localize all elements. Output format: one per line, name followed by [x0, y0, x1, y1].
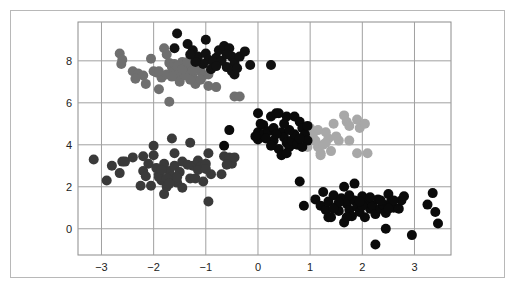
- data-point-cluster-lower-right: [339, 182, 349, 192]
- data-point-cluster-lower-left: [203, 148, 213, 158]
- data-point-cluster-lower-left: [183, 160, 193, 170]
- data-point-cluster-center: [271, 129, 281, 139]
- data-point-cluster-right-middle: [313, 125, 323, 135]
- x-tick-label: 1: [307, 261, 313, 273]
- data-point-cluster-lower-left: [141, 171, 151, 181]
- data-point-cluster-lower-right: [383, 204, 393, 214]
- data-point-cluster-upper-center: [211, 61, 221, 71]
- data-point-cluster-lower-left: [107, 161, 117, 171]
- data-point-cluster-upper-center: [201, 35, 211, 45]
- data-point-cluster-center: [279, 119, 289, 129]
- data-point-cluster-upper-left: [146, 54, 156, 64]
- data-point-cluster-lower-right: [399, 191, 409, 201]
- data-point-cluster-upper-center: [222, 50, 232, 60]
- x-tick-label: 0: [255, 261, 261, 273]
- data-point-cluster-lower-left: [149, 141, 159, 151]
- data-point-cluster-center: [282, 148, 292, 158]
- data-point-cluster-lower-right: [295, 177, 305, 187]
- data-point-cluster-upper-left: [196, 75, 206, 85]
- data-point-cluster-lower-left: [230, 152, 240, 162]
- data-point-cluster-lower-right: [360, 212, 370, 222]
- data-point-cluster-upper-left: [235, 92, 245, 102]
- y-tick-label: 0: [66, 223, 72, 235]
- data-point-cluster-lower-right: [342, 212, 352, 222]
- data-point-cluster-upper-center: [185, 50, 195, 60]
- data-point-cluster-lower-left: [217, 169, 227, 179]
- data-point-cluster-lower-left: [222, 160, 232, 170]
- data-point-cluster-lower-left: [146, 181, 156, 191]
- data-point-cluster-right-middle: [331, 131, 341, 141]
- data-point-cluster-upper-center: [172, 29, 182, 39]
- data-point-cluster-lower-right: [365, 192, 375, 202]
- data-point-cluster-upper-left: [185, 75, 195, 85]
- data-point-cluster-lower-right: [355, 197, 365, 207]
- data-point-cluster-lower-right: [407, 230, 417, 240]
- data-point-cluster-lower-right: [350, 179, 360, 189]
- data-point-cluster-lower-left: [201, 164, 211, 174]
- data-point-cluster-right-middle: [344, 136, 354, 146]
- y-tick-label: 6: [66, 97, 72, 109]
- data-point-cluster-lower-left: [167, 134, 177, 144]
- data-point-cluster-lower-right: [389, 195, 399, 205]
- y-tick-label: 4: [66, 139, 72, 151]
- data-point-cluster-upper-left: [164, 97, 174, 107]
- data-point-cluster-lower-left: [136, 181, 146, 191]
- data-point-cluster-right-middle: [360, 119, 370, 129]
- data-point-cluster-lower-left: [102, 176, 112, 186]
- x-tick-label: −2: [147, 261, 160, 273]
- data-point-cluster-upper-left: [154, 84, 164, 94]
- data-point-cluster-lower-right: [428, 188, 438, 198]
- data-point-cluster-center: [224, 125, 234, 135]
- x-tick-label: −3: [95, 261, 108, 273]
- data-point-cluster-upper-left: [167, 72, 177, 82]
- x-axis-ticks: −3−2−10123: [95, 261, 417, 273]
- data-point-cluster-lower-right: [299, 201, 309, 211]
- data-point-cluster-upper-center: [170, 43, 180, 53]
- data-point-cluster-upper-left: [130, 74, 140, 84]
- data-point-cluster-right-middle: [352, 148, 362, 158]
- data-point-cluster-center: [219, 141, 229, 151]
- x-tick-label: 2: [359, 261, 365, 273]
- data-point-cluster-right-middle: [363, 148, 373, 158]
- data-point-cluster-lower-right: [344, 190, 354, 200]
- data-point-cluster-center: [303, 121, 313, 131]
- data-point-cluster-lower-left: [170, 148, 180, 158]
- data-point-cluster-lower-left: [157, 165, 167, 175]
- data-point-cluster-lower-right: [381, 224, 391, 234]
- x-tick-label: −1: [200, 261, 213, 273]
- data-point-cluster-upper-left: [141, 79, 151, 89]
- data-point-cluster-lower-left: [115, 168, 125, 178]
- data-point-cluster-lower-right: [318, 187, 328, 197]
- data-point-cluster-lower-left: [203, 197, 213, 207]
- data-point-cluster-lower-left: [177, 183, 187, 193]
- data-point-cluster-lower-left: [89, 155, 99, 165]
- data-point-cluster-lower-left: [149, 150, 159, 160]
- data-point-cluster-right-middle: [321, 138, 331, 148]
- data-point-cluster-center: [250, 131, 260, 141]
- data-point-cluster-lower-left: [128, 152, 138, 162]
- data-point-cluster-upper-center: [266, 60, 276, 70]
- data-point-cluster-center: [266, 141, 276, 151]
- data-point-cluster-lower-right: [430, 207, 440, 217]
- data-point-cluster-lower-left: [198, 177, 208, 187]
- y-tick-label: 2: [66, 181, 72, 193]
- data-point-cluster-upper-center: [232, 63, 242, 73]
- data-point-cluster-right-middle: [344, 121, 354, 131]
- data-point-cluster-lower-right: [370, 240, 380, 250]
- data-point-cluster-upper-left: [116, 59, 126, 69]
- data-point-cluster-lower-right: [433, 219, 443, 229]
- data-point-cluster-lower-right: [329, 204, 339, 214]
- data-point-cluster-lower-left: [172, 172, 182, 182]
- data-point-cluster-center: [253, 108, 263, 118]
- data-point-cluster-lower-left: [185, 138, 195, 148]
- y-tick-label: 8: [66, 55, 72, 67]
- data-point-cluster-center: [295, 134, 305, 144]
- data-point-cluster-right-middle: [329, 119, 339, 129]
- data-point-cluster-right-middle: [326, 146, 336, 156]
- data-point-cluster-upper-center: [240, 46, 250, 56]
- data-point-cluster-lower-right: [423, 200, 433, 210]
- y-axis-ticks: 02468: [66, 55, 72, 235]
- data-point-cluster-lower-right: [376, 195, 386, 205]
- data-point-cluster-upper-center: [245, 60, 255, 70]
- scatter-plot: −3−2−10123 02468: [0, 0, 516, 288]
